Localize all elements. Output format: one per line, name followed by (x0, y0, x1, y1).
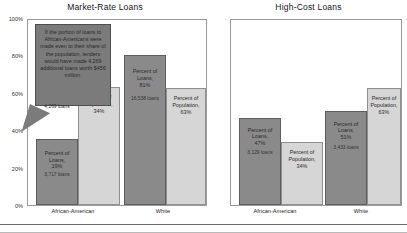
y-axis-market-rate: 100% 80% 60% 40% 20% 0% (0, 19, 26, 206)
y-tick-80: 80% (12, 53, 23, 59)
bar-value-highcost-white-loans: 51% (327, 134, 365, 140)
bar-value-market-white-loans: 81% (126, 82, 164, 88)
bar-sub-highcost-aa-loans: 3,129 loans (241, 150, 279, 156)
bar-highcost-aa-population[interactable]: Percent of Population, 34% (281, 142, 323, 205)
bar-label-market-white-loans: Percent of Loans, (126, 68, 164, 81)
x-label-highcost-african-american: African-American (230, 208, 320, 214)
bar-highcost-white-loans[interactable]: Percent of Loans, 51% 3,433 loans (325, 111, 367, 205)
chart-panel-high-cost: High-Cost Loans Percent of Loans, 47% 3,… (210, 0, 407, 233)
y-tick-100: 100% (9, 16, 23, 22)
bar-sub-market-aa-population: 4,269 loans (38, 104, 76, 110)
bar-sub-market-white-loans: 16,538 loans (126, 96, 164, 102)
bar-label-market-white-population: Percent of Population, (168, 95, 204, 108)
bar-value-market-white-population: 63% (168, 109, 204, 115)
bar-market-white-population[interactable]: Percent of Population, 63% (166, 88, 206, 205)
bar-label-market-aa-loans: Percent of Loans, (38, 150, 76, 163)
bar-label-highcost-aa-population: Percent of Population, (283, 149, 321, 162)
y-tick-20: 20% (12, 166, 23, 172)
chart-panel-market-rate: Market-Rate Loans 100% 80% 60% 40% 20% 0… (0, 0, 210, 233)
plot-area-high-cost: Percent of Loans, 47% 3,129 loans Percen… (230, 19, 402, 206)
y-tick-0: 0% (15, 203, 23, 209)
chart-title-high-cost: High-Cost Loans (210, 2, 407, 12)
x-label-market-african-american: African-American (27, 208, 119, 214)
bar-label-highcost-aa-loans: Percent of Loans, (241, 127, 279, 140)
chart-title-market-rate: Market-Rate Loans (0, 2, 210, 12)
bar-value-market-aa-loans: 19% (38, 163, 76, 169)
bar-market-aa-loans[interactable]: Percent of Loans, 19% 3,717 loans (36, 139, 78, 205)
callout-box: If the portion of loans to African-Ameri… (35, 24, 111, 106)
x-label-market-white: White (119, 208, 207, 214)
x-axis-high-cost: African-American White (230, 208, 402, 222)
bar-label-highcost-white-loans: Percent of Loans, (327, 121, 365, 134)
bar-value-market-aa-population: 34% (80, 108, 118, 114)
bar-label-highcost-white-population: Percent of Population, (369, 95, 399, 108)
bar-value-highcost-aa-population: 34% (283, 163, 321, 169)
bar-highcost-white-population[interactable]: Percent of Population, 63% (367, 88, 401, 205)
bar-sub-highcost-white-loans: 3,433 loans (327, 145, 365, 151)
bar-sub-market-aa-loans: 3,717 loans (38, 172, 76, 178)
footer-rule (0, 224, 407, 225)
y-tick-60: 60% (12, 91, 23, 97)
bar-value-highcost-white-population: 63% (369, 109, 399, 115)
bar-highcost-aa-loans[interactable]: Percent of Loans, 47% 3,129 loans (239, 118, 281, 205)
callout-text: If the portion of loans to African-Ameri… (39, 29, 107, 79)
figure-root: Market-Rate Loans 100% 80% 60% 40% 20% 0… (0, 0, 407, 233)
x-axis-market-rate: African-American White (27, 208, 207, 222)
x-label-highcost-white: White (320, 208, 402, 214)
bar-market-white-loans[interactable]: Percent of Loans, 81% 16,538 loans (124, 55, 166, 205)
bar-value-highcost-aa-loans: 47% (241, 140, 279, 146)
footer-rule-secondary (0, 232, 407, 233)
